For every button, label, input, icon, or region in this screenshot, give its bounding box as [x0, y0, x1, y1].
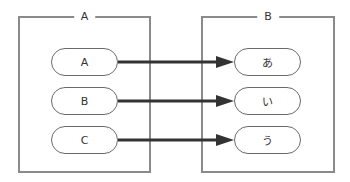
edges-layer	[0, 0, 350, 182]
arrowhead-icon	[216, 134, 234, 146]
arrowhead-icon	[216, 95, 234, 107]
arrowhead-icon	[216, 56, 234, 68]
edge-c-to-u-kana	[118, 134, 234, 146]
edge-a-to-a-kana	[118, 56, 234, 68]
edge-b-to-i-kana	[118, 95, 234, 107]
